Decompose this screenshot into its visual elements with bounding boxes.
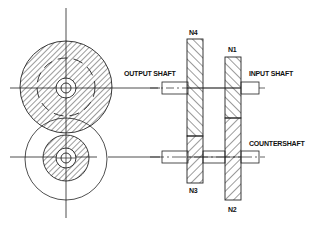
label-countershaft: COUNTERSHAFT — [249, 140, 305, 147]
side-view: N4 N1 N3 N2 OUTPUT SHAFT INPUT SHAFT COU… — [124, 29, 305, 213]
gear-n2 — [225, 118, 241, 200]
label-n3: N3 — [189, 187, 198, 194]
label-output-shaft: OUTPUT SHAFT — [124, 70, 177, 77]
gear-n4 — [187, 39, 203, 136]
label-n4: N4 — [189, 29, 198, 36]
gear-n1 — [225, 57, 241, 118]
gear-train-diagram: N4 N1 N3 N2 OUTPUT SHAFT INPUT SHAFT COU… — [0, 0, 316, 229]
label-input-shaft: INPUT SHAFT — [249, 70, 294, 77]
end-view — [10, 8, 160, 218]
label-n1: N1 — [228, 46, 237, 53]
label-n2: N2 — [228, 206, 237, 213]
input-shaft-stub — [241, 82, 259, 94]
gear-n3 — [187, 136, 203, 183]
